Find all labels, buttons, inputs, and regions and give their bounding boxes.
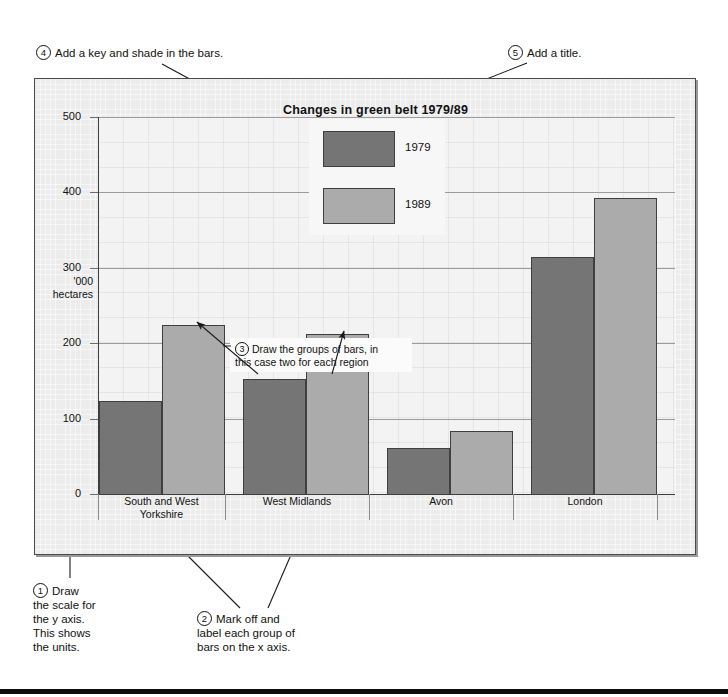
annotation-2: 2Mark off and label each group of bars o… [197,611,337,654]
annotation-1-line2: the scale for [33,598,128,612]
annotation-1-line5: the units. [33,640,128,654]
annotation-3-leader-right [332,331,344,374]
annotation-1-line1: Draw [52,585,79,597]
page-bottom-rule [0,689,728,694]
chart-frame: Changes in green belt 1979/89 500 400 30… [34,78,696,555]
annotation-1: 1Draw the scale for the y axis. This sho… [33,583,128,654]
annotation-2-line3: bars on the x axis. [197,640,337,654]
annotation-3-leader-left [197,322,258,374]
annotation-3-leaders [35,79,695,554]
annotation-1-number: 1 [33,583,48,598]
annotation-1-line3: the y axis. [33,612,128,626]
annotation-1-line4: This shows [33,626,128,640]
annotation-2-line2: label each group of [197,626,337,640]
annotation-2-line1: Mark off and [216,613,280,625]
page-root: 4Add a key and shade in the bars. 5Add a… [0,0,728,697]
annotation-2-number: 2 [197,611,212,626]
